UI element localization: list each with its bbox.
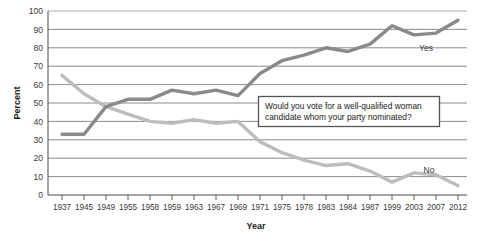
x-tick-1975: 1975 xyxy=(273,203,292,212)
x-axis-title: Year xyxy=(246,221,266,231)
series-label-no: No xyxy=(424,165,435,175)
y-tick-60: 60 xyxy=(33,80,43,90)
x-tick-1999: 1999 xyxy=(383,203,402,212)
x-tick-1945: 1945 xyxy=(75,203,94,212)
line-chart: 100 90 80 70 60 50 40 30 20 10 0 1937 19… xyxy=(0,0,483,246)
x-tick-2012: 2012 xyxy=(449,203,468,212)
y-tick-30: 30 xyxy=(33,135,43,145)
x-tick-1955: 1955 xyxy=(119,203,138,212)
x-tick-2003: 2003 xyxy=(405,203,424,212)
x-tick-1958: 1958 xyxy=(141,203,160,212)
x-tick-1967: 1967 xyxy=(207,203,226,212)
series-label-yes: Yes xyxy=(419,43,433,53)
x-tick-1937: 1937 xyxy=(53,203,72,212)
x-axis-ticks xyxy=(62,195,458,200)
y-tick-90: 90 xyxy=(33,25,43,35)
series-line-no xyxy=(62,75,458,185)
x-tick-1987: 1987 xyxy=(361,203,380,212)
y-tick-40: 40 xyxy=(33,117,43,127)
y-tick-80: 80 xyxy=(33,43,43,53)
chart-page: 100 90 80 70 60 50 40 30 20 10 0 1937 19… xyxy=(0,0,483,246)
x-tick-2007: 2007 xyxy=(427,203,446,212)
y-axis-tick-labels: 100 90 80 70 60 50 40 30 20 10 0 xyxy=(29,6,44,200)
x-tick-1971: 1971 xyxy=(251,203,270,212)
x-tick-1949: 1949 xyxy=(97,203,116,212)
y-tick-100: 100 xyxy=(29,6,44,16)
x-tick-1983: 1983 xyxy=(317,203,336,212)
x-tick-1959: 1959 xyxy=(163,203,182,212)
y-tick-10: 10 xyxy=(33,172,43,182)
y-tick-50: 50 xyxy=(33,98,43,108)
y-tick-20: 20 xyxy=(33,153,43,163)
gridlines xyxy=(48,11,467,177)
x-tick-1978: 1978 xyxy=(295,203,314,212)
x-tick-1969: 1969 xyxy=(229,203,248,212)
y-tick-70: 70 xyxy=(33,61,43,71)
x-tick-1963: 1963 xyxy=(185,203,204,212)
x-tick-1984: 1984 xyxy=(339,203,358,212)
annotation-line-2: candidate whom your party nominated? xyxy=(265,112,412,122)
annotation-line-1: Would you vote for a well-qualified woma… xyxy=(265,101,422,111)
y-axis-title: Percent xyxy=(12,86,22,119)
x-axis-tick-labels: 1937 1945 1949 1955 1958 1959 1963 1967 … xyxy=(53,203,468,212)
y-tick-0: 0 xyxy=(38,190,43,200)
survey-question-annotation: Would you vote for a well-qualified woma… xyxy=(259,97,440,127)
